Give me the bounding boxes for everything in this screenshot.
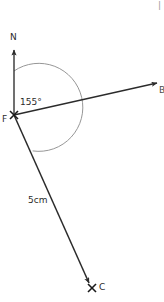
segment-fc: [14, 115, 89, 283]
label-north: N: [10, 33, 17, 42]
point-c-marker: [88, 284, 96, 292]
diagram-canvas: [0, 0, 164, 302]
label-point-b: B: [159, 86, 164, 95]
bearing-diagram: N F C 155° 5cm B |: [0, 0, 164, 302]
label-length-fc: 5cm: [28, 196, 47, 205]
label-point-f: F: [2, 115, 7, 124]
label-point-c: C: [99, 283, 105, 292]
label-corner-fragment: |: [158, 1, 161, 10]
label-angle-value: 155°: [20, 98, 42, 107]
